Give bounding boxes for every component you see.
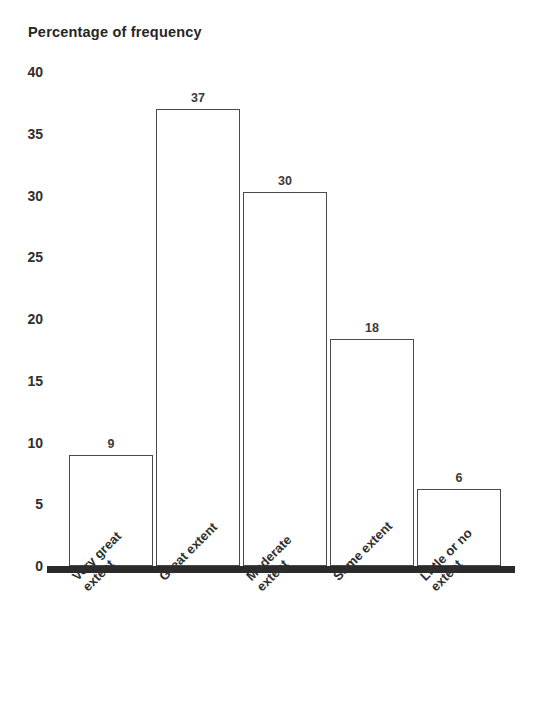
y-tick-30: 30 — [9, 188, 43, 204]
chart-title: Percentage of frequency — [28, 24, 202, 40]
bar-value-label: 6 — [456, 471, 463, 485]
y-tick-40: 40 — [9, 64, 43, 80]
y-tick-25: 25 — [9, 249, 43, 265]
bar-value-label: 18 — [365, 321, 379, 335]
y-tick-5: 5 — [9, 496, 43, 512]
y-tick-20: 20 — [9, 311, 43, 327]
y-tick-0: 0 — [9, 558, 43, 574]
y-axis: 0 5 10 15 20 25 30 35 40 — [0, 72, 43, 566]
bar-value-label: 37 — [191, 91, 205, 105]
y-tick-15: 15 — [9, 373, 43, 389]
bar-value-label: 9 — [108, 437, 115, 451]
bar-great-extent[interactable]: 37 — [156, 109, 240, 566]
y-tick-10: 10 — [9, 435, 43, 451]
bar-moderate-extent[interactable]: 30 — [243, 192, 327, 566]
plot-area: 9 37 30 18 6 — [47, 72, 515, 566]
bar-chart: Percentage of frequency 0 5 10 15 20 25 … — [0, 0, 538, 717]
x-axis: Very great extent Great extent Moderate … — [47, 573, 515, 717]
y-tick-35: 35 — [9, 126, 43, 142]
bar-value-label: 30 — [278, 174, 292, 188]
